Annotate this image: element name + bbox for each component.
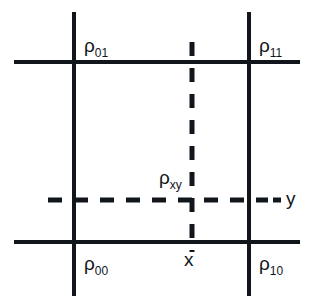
label-rho-10: ρ10 xyxy=(259,254,283,277)
rho-01-base: ρ xyxy=(84,35,95,56)
rho-00-subscript: 00 xyxy=(95,264,108,278)
label-axis-x: x xyxy=(184,250,194,269)
rho-10-base: ρ xyxy=(259,253,270,274)
label-rho-11: ρ11 xyxy=(259,36,282,59)
label-rho-00: ρ00 xyxy=(84,254,108,277)
diagram-canvas: ρ01 ρ11 ρ00 ρ10 ρxy x y xyxy=(0,0,317,304)
label-axis-y: y xyxy=(286,189,296,208)
label-rho-xy: ρxy xyxy=(159,168,182,191)
rho-xy-subscript: xy xyxy=(170,178,182,192)
rho-00-base: ρ xyxy=(84,253,95,274)
rho-11-base: ρ xyxy=(259,35,270,56)
rho-01-subscript: 01 xyxy=(95,46,108,60)
label-rho-01: ρ01 xyxy=(84,36,108,59)
rho-xy-base: ρ xyxy=(159,167,170,188)
rho-10-subscript: 10 xyxy=(270,264,283,278)
rho-11-subscript: 11 xyxy=(270,46,282,60)
